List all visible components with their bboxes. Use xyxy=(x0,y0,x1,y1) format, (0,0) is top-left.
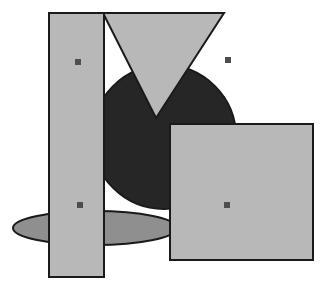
marker-top-left-icon xyxy=(75,59,81,65)
shape-composition-canvas xyxy=(0,0,328,293)
marker-bottom-right-icon xyxy=(224,202,230,208)
marker-top-right-icon xyxy=(225,57,231,63)
marker-bottom-left-icon xyxy=(77,202,83,208)
scene-svg xyxy=(0,0,328,293)
tall-rectangle-shape xyxy=(49,13,104,277)
square-shape xyxy=(170,124,313,260)
